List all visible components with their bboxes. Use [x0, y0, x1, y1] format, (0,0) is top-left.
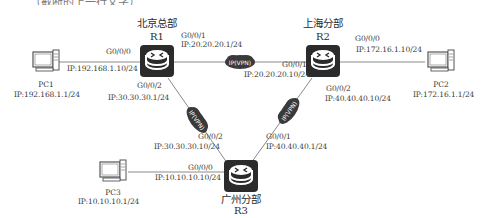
svg-text:IP(VPN): IP(VPN)	[229, 59, 251, 66]
r1-g002-ip-label: IP:30.30.30.1/24	[108, 93, 169, 102]
pc1-ip-label: IP:192.168.1.1/24	[14, 90, 80, 99]
pc3-name-label: PC3	[100, 188, 126, 197]
router-r2[interactable]	[306, 45, 340, 77]
pc1-name-label: PC1	[33, 80, 59, 89]
r2-g002-ip-label: IP:40.40.40.10/24	[325, 94, 391, 103]
r2-g002-port-label: G0/0/2	[326, 84, 351, 93]
r2-g001-ip-label: IP:20.20.20.10/24	[244, 70, 310, 79]
r1-g002-port-label: G0/0/2	[137, 81, 162, 90]
links	[58, 62, 425, 172]
r2-g000-port-label: G0/0/0	[355, 34, 380, 43]
pc2-ip-label: IP:172.16.1.1/24	[413, 90, 474, 99]
r2-name-label: R2	[313, 31, 333, 42]
r3-g002-ip-label: IP:30.30.30.10/24	[154, 142, 220, 151]
r1-g001-port-label: G0/0/1	[181, 31, 206, 40]
link-r2-r3	[246, 78, 312, 170]
r3-site-label: 广州分部	[216, 193, 266, 205]
vpn-cloud-r1-r2-icon: IP(VPN)	[225, 55, 255, 69]
r3-name-label: R3	[231, 205, 251, 216]
r3-g000-port-label: G0/0/0	[188, 163, 213, 172]
pc2-icon[interactable]	[428, 50, 454, 71]
r3-g001-port-label: G0/0/1	[266, 132, 291, 141]
pc3-icon[interactable]	[100, 160, 126, 181]
pc3-ip-label: IP:10.10.10.1/24	[78, 197, 139, 206]
r3-g000-ip-label: IP:10.10.10.10/24	[155, 173, 221, 182]
r3-g002-port-label: G0/0/2	[198, 132, 223, 141]
r3-g001-ip-label: IP:40.40.40.1/24	[266, 142, 327, 151]
r1-site-label: 北京总部	[132, 17, 182, 29]
router-r3[interactable]	[224, 160, 258, 192]
r1-g001-ip-label: IP:20.20.20.1/24	[181, 40, 242, 49]
r1-name-label: R1	[147, 31, 167, 42]
r1-g000-ip-label: IP:192.168.1.10/24	[67, 64, 138, 73]
vpn-cloud-r2-r3-icon: IP(VPN)	[275, 95, 304, 128]
r2-site-label: 上海分部	[298, 17, 348, 29]
pc2-name-label: PC2	[428, 80, 454, 89]
pc1-icon[interactable]	[33, 50, 59, 71]
r1-g000-port-label: G0/0/0	[106, 47, 131, 56]
router-r1[interactable]	[140, 45, 174, 77]
r2-g000-ip-label: IP:172.16.1.10/24	[356, 45, 422, 54]
network-topology: IP(VPN) IP(VPN) IP(VPN)	[0, 0, 489, 218]
r2-g001-port-label: G0/0/1	[282, 60, 307, 69]
